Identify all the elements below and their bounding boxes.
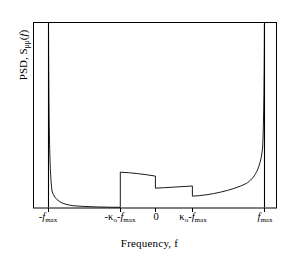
plot-canvas bbox=[0, 0, 299, 264]
xtick-tail-sub: max bbox=[195, 216, 207, 224]
y-axis-title: PSD, Sμμ(f) bbox=[13, 0, 33, 148]
y-axis-title-sub: μμ bbox=[22, 40, 31, 48]
xtick-label-neg-kappa-fmax: -κo-fmax bbox=[105, 211, 136, 224]
y-axis-title-suffix: (f) bbox=[17, 30, 29, 40]
xtick-label-zero: 0 bbox=[153, 211, 158, 222]
xtick-sub: max bbox=[260, 216, 272, 224]
xtick-main: 0 bbox=[153, 211, 158, 222]
x-axis-title-text: Frequency, f bbox=[121, 237, 178, 249]
xtick-label-pos-fmax: fmax bbox=[258, 211, 273, 224]
y-axis-title-prefix: PSD, S bbox=[17, 48, 29, 80]
xtick-tail-sub: max bbox=[123, 216, 135, 224]
psd-figure: -fmax -κo-fmax 0 κo-fmax fmax Frequency,… bbox=[0, 0, 299, 264]
xtick-label-neg-fmax: -fmax bbox=[39, 211, 57, 224]
xtick-main: -κ bbox=[105, 211, 114, 222]
xtick-label-pos-kappa-fmax: κo-fmax bbox=[179, 211, 206, 224]
x-axis-title: Frequency, f bbox=[0, 237, 299, 249]
xtick-sub: max bbox=[45, 216, 57, 224]
